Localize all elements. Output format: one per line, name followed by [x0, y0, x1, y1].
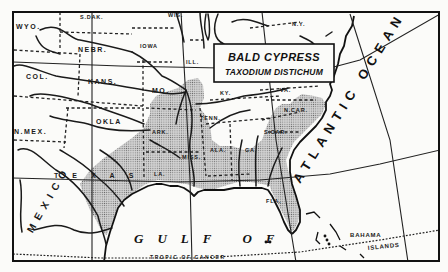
label-tropic-of-cancer: TROPIC OF CANCER — [150, 254, 226, 260]
label-louisiana: LA. — [154, 171, 165, 177]
lake-michigan — [205, 14, 210, 40]
label-tennessee: TENN. — [200, 115, 221, 121]
label-new-mexico: N.MEX. — [14, 128, 47, 135]
label-nebraska: NEBR. — [78, 46, 107, 53]
label-south-carolina: S.CAR. — [264, 129, 287, 135]
label-north-carolina: N.CAR. — [284, 107, 308, 113]
label-colorado: COL. — [26, 73, 49, 80]
label-bahama: BAHAMA — [350, 232, 381, 238]
lake-erie — [326, 32, 332, 36]
label-mississippi: MISS. — [182, 154, 201, 160]
label-alabama: ALA. — [210, 147, 226, 153]
label-kansas: KANS. — [88, 78, 117, 85]
label-missouri: MO. — [152, 87, 170, 94]
label-arkansas: ARK. — [152, 129, 169, 135]
label-virginia: VA. — [280, 87, 291, 93]
label-wisconsin: WIS. — [168, 12, 183, 18]
label-gulf-of: GULF OF — [134, 231, 288, 246]
label-iowa: IOWA — [140, 43, 158, 49]
map-subtitle: TAXODIUM DISTICHUM — [225, 67, 324, 77]
label-mexico: MEXICO — [25, 164, 72, 235]
label-new-york: N.Y. — [292, 21, 305, 27]
label-florida: FLA. — [266, 198, 281, 204]
label-wyoming: WYO. — [16, 23, 41, 30]
label-south-dakota: S.DAK. — [80, 14, 103, 20]
label-illinois: ILL. — [186, 59, 199, 65]
map-title: BALD CYPRESS — [228, 51, 320, 63]
bald-cypress-range-map: BALD CYPRESS TAXODIUM DISTICHUM WYO. S.D… — [0, 0, 448, 272]
label-kentucky: KY. — [220, 90, 231, 96]
label-georgia: GA. — [245, 147, 257, 153]
label-oklahoma: OKLA — [96, 118, 122, 125]
